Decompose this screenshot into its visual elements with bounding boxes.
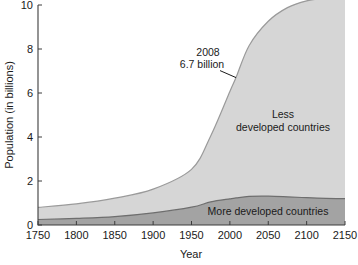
x-tick-label-1900: 1900 — [141, 229, 165, 241]
y-axis-tick-labels: 0246810 — [21, 0, 33, 231]
series-label-less-developed-line2: developed countries — [236, 121, 330, 133]
y-tick-label-2: 2 — [27, 175, 33, 187]
series-label-more-developed: More developed countries — [208, 205, 329, 217]
x-tick-label-1800: 1800 — [64, 229, 88, 241]
annotation-value-label: 6.7 billion — [180, 58, 225, 70]
chart-canvas: 0246810 17501800185019001950200020502100… — [0, 0, 358, 265]
y-tick-label-6: 6 — [27, 87, 33, 99]
x-tick-label-1850: 1850 — [103, 229, 127, 241]
x-tick-label-2150: 2150 — [333, 229, 357, 241]
x-tick-label-2000: 2000 — [218, 229, 242, 241]
x-tick-label-2050: 2050 — [256, 229, 280, 241]
y-tick-label-10: 10 — [21, 0, 33, 11]
y-tick-label-8: 8 — [27, 43, 33, 55]
y-axis-title: Population (in billions) — [3, 61, 15, 169]
annotation-year-label: 2008 — [196, 46, 220, 58]
series-label-less-developed-line1: Less — [272, 108, 294, 120]
x-tick-label-1750: 1750 — [26, 229, 50, 241]
y-tick-label-4: 4 — [27, 131, 33, 143]
x-axis-tick-labels: 175018001850190019502000205021002150 — [26, 229, 357, 241]
x-tick-label-1950: 1950 — [179, 229, 203, 241]
population-area-chart: 0246810 17501800185019001950200020502100… — [0, 0, 358, 265]
x-tick-label-2100: 2100 — [294, 229, 318, 241]
x-axis-title: Year — [180, 248, 203, 260]
